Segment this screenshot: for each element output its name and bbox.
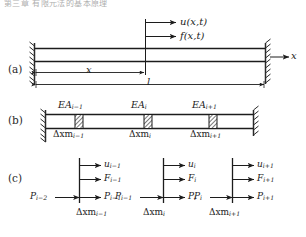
label-stiffness-3: EAi+1 — [192, 100, 217, 110]
panel-c-graphics — [55, 158, 254, 203]
label-c2-u: ui — [188, 160, 196, 169]
stiffness-2-base: EA — [131, 99, 145, 110]
stiffness-1-base: EA — [58, 99, 72, 110]
c1-F-sub: i−1 — [110, 176, 121, 183]
c2-pleft-sub: i−1 — [121, 194, 132, 201]
label-c2-F: Fi — [188, 174, 196, 183]
c2-mass-base: Δxm — [143, 207, 163, 217]
stiffness-1-sub: i−1 — [72, 103, 83, 110]
stiffness-2-sub: i — [145, 103, 147, 110]
c3-mass-base: Δxm — [209, 207, 229, 217]
label-stiffness-1: EAi−1 — [58, 100, 83, 110]
c1-mass-base: Δxm — [76, 207, 96, 217]
label-c1-mass: Δxmi−1 — [76, 208, 107, 217]
figure-linework — [0, 0, 306, 237]
c3-pright-sub: i+1 — [263, 194, 274, 201]
label-stiffness-2: EAi — [131, 100, 147, 110]
label-mass-b-2: Δxmi — [129, 130, 151, 139]
mass-b-3-sub: i+1 — [210, 132, 221, 139]
label-c3-mass: Δxmi+1 — [209, 208, 240, 217]
panel-c-element-3 — [210, 158, 254, 203]
panel-c-element-2 — [140, 158, 185, 203]
c2-mass-sub: i — [163, 210, 165, 217]
figure-container: 第三章 有限元法的基本原理 (a) (b) (c) — [0, 0, 306, 237]
label-c3-p-left: Pi — [194, 192, 202, 201]
mass-b-2-base: Δxm — [129, 129, 149, 139]
label-c2-p-left: Pi−1 — [115, 192, 132, 201]
label-force-fxt: f(x,t) — [180, 31, 204, 41]
label-c1-u: ui−1 — [104, 160, 121, 169]
c2-u-sub: i — [194, 162, 196, 169]
label-c1-p-left: Pi−2 — [30, 192, 47, 201]
c1-u-sub: i−1 — [110, 162, 121, 169]
c1-pleft-sub: i−2 — [36, 194, 47, 201]
c3-pleft-sub: i — [200, 194, 202, 201]
mass-b-2-sub: i — [149, 132, 151, 139]
panel-b-left-support — [41, 109, 46, 142]
label-c2-mass: Δxmi — [143, 208, 165, 217]
mass-b-1-sub: i−1 — [73, 132, 84, 139]
label-dimension-l: l — [147, 77, 150, 87]
label-c3-p-right: Pi+1 — [257, 192, 274, 201]
label-dimension-x: x — [86, 65, 92, 75]
c1-mass-sub: i−1 — [96, 210, 107, 217]
panel-a-bar — [35, 49, 266, 62]
label-axis-x: x — [291, 51, 297, 61]
c2-F-sub: i — [194, 176, 196, 183]
mass-b-3-base: Δxm — [190, 129, 210, 139]
stiffness-3-sub: i+1 — [206, 103, 217, 110]
stiffness-3-base: EA — [192, 99, 206, 110]
mass-b-1-base: Δxm — [53, 129, 73, 139]
panel-a-right-support — [266, 39, 271, 84]
label-displacement-uxt: u(x,t) — [180, 17, 207, 27]
c3-mass-sub: i+1 — [229, 210, 240, 217]
panel-a-left-support — [30, 42, 35, 85]
panel-b-right-support — [254, 106, 259, 136]
label-c1-F: Fi−1 — [104, 174, 121, 183]
label-mass-b-3: Δxmi+1 — [190, 130, 221, 139]
label-c3-F: Fi+1 — [257, 174, 274, 183]
label-c3-u: ui+1 — [257, 160, 274, 169]
panel-c-element-1 — [55, 158, 101, 203]
label-mass-b-1: Δxmi−1 — [53, 130, 84, 139]
panel-b-mass-blocks — [75, 115, 217, 129]
c3-F-sub: i+1 — [263, 176, 274, 183]
c3-u-sub: i+1 — [263, 162, 274, 169]
panel-a-graphics — [30, 19, 290, 88]
